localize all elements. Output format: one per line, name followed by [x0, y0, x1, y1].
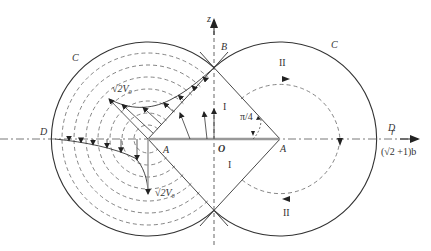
- axes: [0, 20, 418, 245]
- diagram-canvas: z r C C B D D A A O π/4 I I II II √2V₀ √…: [0, 0, 431, 251]
- label-A-right: A: [279, 143, 287, 154]
- label-region-II-top: II: [279, 57, 286, 68]
- label-C-left: C: [72, 52, 79, 63]
- right-streamline-lower: [241, 139, 340, 194]
- angle-arrow-1: [251, 131, 255, 136]
- angle-arc: [253, 120, 261, 140]
- velocity-arrow-top: [143, 107, 161, 124]
- label-angle: π/4: [240, 111, 253, 122]
- label-O: O: [218, 143, 225, 154]
- inner-arrows: [180, 109, 214, 139]
- arrow-right-bottom: [282, 196, 290, 202]
- label-region-II-bottom: II: [283, 207, 290, 218]
- label-A-left: A: [162, 144, 170, 155]
- velocity-arrow-top: [192, 86, 195, 88]
- arrow-right-mid: [337, 138, 343, 146]
- diagram-svg: z r C C B D D A A O π/4 I I II II √2V₀ √…: [0, 0, 431, 251]
- square-extension-down: [214, 210, 228, 226]
- label-velocity-top: √2V₀: [112, 83, 133, 94]
- velocity-arrow-top: [203, 77, 204, 78]
- label-velocity-bottom: √2V₀: [155, 187, 176, 198]
- square-extension-up-left: [200, 52, 214, 68]
- label-region-I-top: I: [223, 101, 226, 112]
- square-extension-down-left: [200, 210, 214, 226]
- velocity-arrow-top: [164, 103, 174, 112]
- velocity-arrow-top: [178, 95, 183, 100]
- label-B: B: [221, 41, 227, 52]
- bottom-velocity-arrows: [69, 139, 148, 194]
- right-streamline-upper: [241, 84, 340, 139]
- label-D-left: D: [39, 126, 48, 137]
- inner-arrow-2: [204, 112, 207, 139]
- label-D-right: D: [387, 122, 396, 133]
- inner-arrow-1: [180, 113, 190, 139]
- velocity-profile-bottom: [55, 139, 148, 193]
- arrow-right-top: [282, 76, 290, 82]
- square-extension-up: [214, 52, 228, 68]
- square-edge-bottom-left: [148, 139, 214, 210]
- velocity-arrow-top-lead: [109, 99, 148, 139]
- square-edge-left-top: [148, 68, 214, 139]
- label-radius-value: (√2 +1)b: [381, 146, 416, 158]
- z-axis-label: z: [206, 13, 211, 24]
- label-region-I-bottom: I: [228, 159, 231, 170]
- label-C-right: C: [331, 39, 338, 50]
